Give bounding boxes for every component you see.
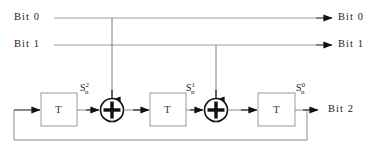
lfsr-diagram: Bit 0 Bit 1 Bit 0 Bit 1 Bit 2 T T T S2n … [0,0,385,149]
delay-register-3-label: T [273,103,280,115]
state-s-n-2: S2n [80,82,89,93]
bit0-output-label: Bit 0 [338,11,364,22]
state-s-n-1-sub: n [191,88,195,96]
state-s-n-0-sub: n [301,88,305,96]
state-s-n-2-sub: n [85,88,89,96]
delay-register-2-label: T [164,103,171,115]
delay-register-1-label: T [55,103,62,115]
state-s-n-0: S0n [296,82,305,93]
bit2-output-label: Bit 2 [328,103,354,114]
state-s-n-1: S1n [186,82,195,93]
bit1-output-label: Bit 1 [338,38,364,49]
bit1-input-label: Bit 1 [14,38,40,49]
bit0-input-label: Bit 0 [14,11,40,22]
diagram-canvas [0,0,385,149]
